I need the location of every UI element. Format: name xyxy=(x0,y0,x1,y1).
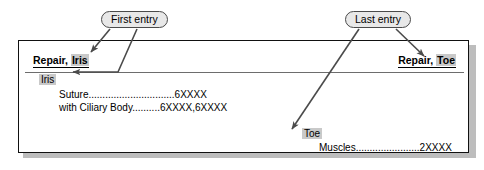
index-subentries-first: Suture...............................6XX… xyxy=(59,88,227,114)
index-subentries-last: Muscles.......................2XXXX xyxy=(319,141,452,154)
index-panel: Repair, Iris Repair, Toe Iris Suture....… xyxy=(18,40,469,153)
running-head-right: Repair, Toe xyxy=(398,54,456,68)
callout-last-entry: Last entry xyxy=(345,11,411,28)
index-subentry: Muscles.......................2XXXX xyxy=(319,141,452,154)
figure-canvas: Repair, Iris Repair, Toe Iris Suture....… xyxy=(0,0,484,170)
index-term-first-label: Iris xyxy=(39,74,56,85)
index-subentry: with Ciliary Body..........6XXXX,6XXXX xyxy=(59,101,227,114)
subentry-text-0-1: with Ciliary Body..........6XXXX,6XXXX xyxy=(59,102,227,113)
running-head-right-prefix: Repair, xyxy=(398,54,436,66)
header-divider-rule xyxy=(25,72,464,73)
running-head-left-highlight: Iris xyxy=(71,54,89,66)
index-term-first: Iris xyxy=(39,74,56,85)
running-head-right-highlight: Toe xyxy=(436,54,456,66)
index-term-last: Toe xyxy=(302,128,322,139)
subentry-text-1-0: Muscles.......................2XXXX xyxy=(319,142,452,153)
callout-first-entry: First entry xyxy=(101,11,168,28)
subentry-text-0-0: Suture...............................6XX… xyxy=(59,89,207,100)
index-panel-inner: Repair, Iris Repair, Toe Iris Suture....… xyxy=(19,41,468,152)
running-head-row: Repair, Iris Repair, Toe xyxy=(19,54,468,68)
index-subentry: Suture...............................6XX… xyxy=(59,88,227,101)
index-term-last-label: Toe xyxy=(302,128,322,139)
running-head-left-prefix: Repair, xyxy=(33,54,71,66)
running-head-left: Repair, Iris xyxy=(33,54,89,68)
